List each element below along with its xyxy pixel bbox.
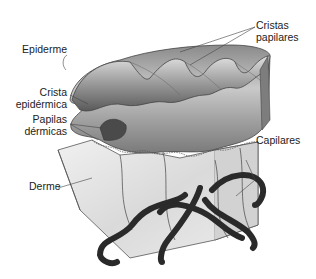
label-crista-epidermica-2: epidérmica xyxy=(16,98,67,110)
label-papilas-dermicas-1: Papilas xyxy=(33,113,67,125)
label-derme: Derme xyxy=(29,180,61,192)
label-cristas-papilares-1: Cristas xyxy=(256,19,289,31)
label-capilares: Capilares xyxy=(256,134,300,146)
label-crista-epidermica-1: Crista xyxy=(40,86,67,98)
label-epiderme: Epiderme xyxy=(22,43,67,55)
epidermis-layer xyxy=(70,45,270,156)
label-papilas-dermicas-2: dérmicas xyxy=(24,125,67,137)
label-cristas-papilares-2: papilares xyxy=(256,31,299,43)
dermis-layer xyxy=(58,140,258,258)
